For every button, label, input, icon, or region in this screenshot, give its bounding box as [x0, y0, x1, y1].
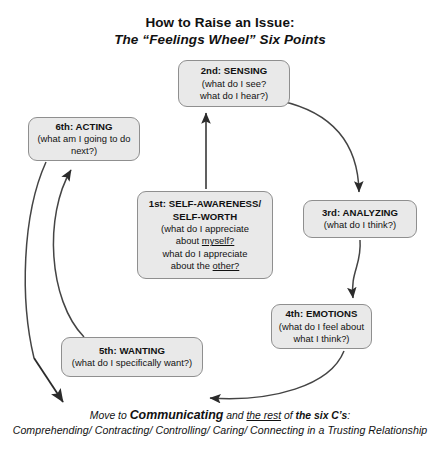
node-self-awareness-heading-1: 1st: SELF-AWARENESS/	[149, 198, 261, 211]
node-emotions-line-1: (what do I feel about	[279, 321, 364, 333]
node-self-awareness[interactable]: 1st: SELF-AWARENESS/ SELF-WORTH (what do…	[137, 191, 273, 279]
node-self-awareness-line-4: about the other?	[171, 260, 240, 272]
footer-the-rest: the rest	[246, 410, 281, 421]
footer-of: of	[281, 410, 295, 421]
footer-communicating: Communicating	[130, 408, 224, 422]
footer-line-1: Move to Communicating and the rest of th…	[0, 408, 440, 423]
footer-six-cs: the six C’s	[296, 410, 348, 421]
node-acting[interactable]: 6th: ACTING (what am I going to do next?…	[28, 117, 140, 161]
node-sensing-heading: 2nd: SENSING	[201, 65, 268, 78]
arrow-emotions-to-wanting	[210, 351, 344, 399]
node-self-awareness-heading-2: SELF-WORTH	[173, 211, 237, 224]
node-emotions-heading: 4th: EMOTIONS	[285, 308, 357, 321]
node-analyzing[interactable]: 3rd: ANALYZING (what do I think?)	[303, 200, 417, 238]
node-sensing[interactable]: 2nd: SENSING (what do I see? what do I h…	[178, 60, 290, 107]
arrow-sensing-to-analyzing	[281, 101, 359, 192]
arrow-analyzing-to-emotions	[353, 240, 361, 298]
diagram-title: How to Raise an Issue: The “Feelings Whe…	[0, 14, 440, 49]
footer-and: and	[223, 410, 246, 421]
node-sensing-line-2: what do I hear?)	[200, 90, 268, 102]
arrow-wanting-to-acting	[53, 170, 84, 337]
arrow-acting-to-communicating	[25, 162, 46, 358]
footer-note: Move to Communicating and the rest of th…	[0, 408, 440, 438]
node-sensing-line-1: (what do I see?	[202, 78, 266, 90]
node-self-awareness-line-2-pre: about	[176, 235, 202, 246]
title-line-2: The “Feelings Wheel” Six Points	[0, 31, 440, 49]
node-emotions-line-2: what I think?)	[293, 333, 349, 345]
node-acting-line-1: (what am I going to do	[37, 133, 130, 145]
diagram-canvas: How to Raise an Issue: The “Feelings Whe…	[0, 0, 440, 452]
footer-colon: :	[347, 410, 350, 421]
node-wanting[interactable]: 5th: WANTING (what do I specifically wan…	[61, 337, 203, 377]
node-analyzing-line-1: (what do I think?)	[324, 219, 396, 231]
footer-move-to: Move to	[90, 410, 130, 421]
arrow-acting-to-communicating-head	[34, 358, 63, 402]
node-self-awareness-line-3: what do I appreciate	[163, 248, 248, 260]
footer-line-2: Comprehending/ Contracting/ Controlling/…	[0, 423, 440, 438]
node-analyzing-heading: 3rd: ANALYZING	[322, 207, 398, 220]
node-self-awareness-line-1: (what do I appreciate	[161, 223, 249, 235]
node-self-awareness-line-4-pre: about the	[171, 260, 213, 271]
title-line-1: How to Raise an Issue:	[0, 14, 440, 31]
node-self-awareness-myself: myself?	[202, 235, 234, 246]
node-acting-heading: 6th: ACTING	[55, 121, 112, 134]
node-emotions[interactable]: 4th: EMOTIONS (what do I feel about what…	[271, 304, 372, 349]
node-wanting-heading: 5th: WANTING	[99, 345, 165, 358]
node-self-awareness-line-2: about myself?	[176, 235, 235, 247]
node-wanting-line-1: (what do I specifically want?)	[72, 357, 192, 369]
node-self-awareness-other: other?	[213, 260, 240, 271]
node-acting-line-2: next?)	[71, 145, 97, 157]
